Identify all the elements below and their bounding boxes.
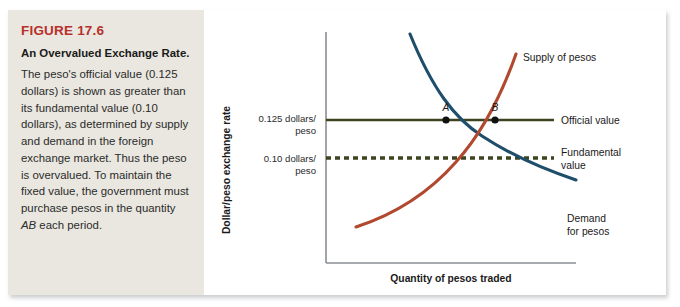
demand-curve-label-line2: for pesos bbox=[567, 226, 609, 237]
demand-curve-label-line1: Demand bbox=[567, 213, 606, 224]
y-tick-label-010-line2: peso bbox=[295, 165, 316, 176]
figure-body-italic-AB: AB bbox=[21, 219, 36, 231]
exchange-rate-chart: Dollar/peso exchange rate 0.125 dollars/… bbox=[204, 10, 666, 295]
figure-container: FIGURE 17.6 An Overvalued Exchange Rate.… bbox=[8, 10, 666, 295]
fundamental-value-label-line2: value bbox=[561, 160, 586, 171]
x-axis-title: Quantity of pesos traded bbox=[390, 273, 511, 284]
y-tick-label-010-line1: 0.10 dollars/ bbox=[264, 153, 317, 164]
y-tick-label-0125-line2: peso bbox=[295, 125, 316, 136]
y-tick-label-0125-line1: 0.125 dollars/ bbox=[258, 113, 316, 124]
chart-panel: Dollar/peso exchange rate 0.125 dollars/… bbox=[204, 10, 666, 295]
y-axis-title: Dollar/peso exchange rate bbox=[221, 106, 232, 234]
point-a-label: A bbox=[442, 102, 450, 113]
figure-body-part2: each period. bbox=[36, 219, 102, 231]
figure-body-text: The peso's official value (0.125 dollars… bbox=[21, 66, 191, 234]
point-b-label: B bbox=[492, 102, 499, 113]
figure-body-part1: The peso's official value (0.125 dollars… bbox=[21, 68, 189, 214]
point-a-marker bbox=[442, 116, 449, 123]
figure-number: FIGURE 17.6 bbox=[21, 24, 191, 39]
point-b-marker bbox=[491, 116, 498, 123]
fundamental-value-label-line1: Fundamental bbox=[561, 147, 621, 158]
official-value-label: Official value bbox=[561, 115, 620, 126]
figure-caption-panel: FIGURE 17.6 An Overvalued Exchange Rate.… bbox=[8, 10, 204, 295]
supply-curve-label: Supply of pesos bbox=[523, 52, 596, 63]
figure-subtitle: An Overvalued Exchange Rate. bbox=[21, 46, 191, 60]
